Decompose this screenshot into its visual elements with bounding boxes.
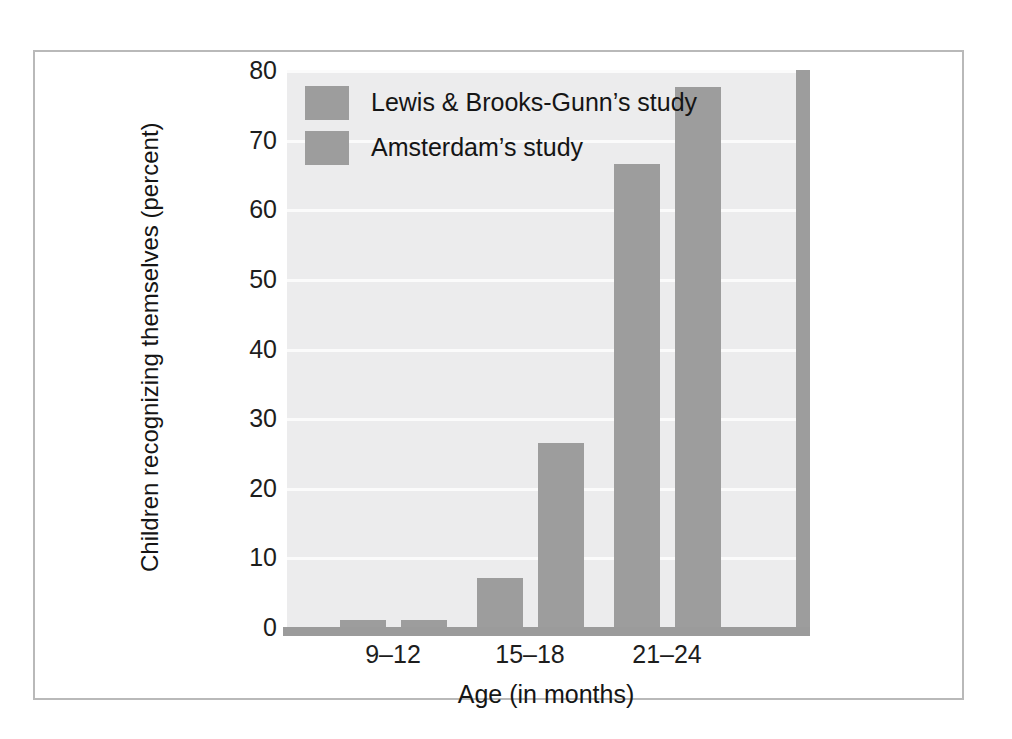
x-tick-label-15-18: 15–18 (495, 640, 565, 669)
bar-group3-series1 (614, 164, 660, 627)
y-tick-label-30: 30 (217, 406, 277, 431)
legend-item-amsterdam: Amsterdam’s study (305, 125, 735, 170)
y-tick-label-70: 70 (217, 127, 277, 152)
bar-chart: 80 70 60 50 40 30 20 10 0 Children recog… (0, 0, 1012, 739)
legend-label: Amsterdam’s study (371, 133, 583, 162)
x-tick-label-21-24: 21–24 (632, 640, 702, 669)
legend-item-lewis-brooks-gunn: Lewis & Brooks-Gunn’s study (305, 80, 735, 125)
x-axis-line (283, 627, 810, 636)
y-tick-label-60: 60 (217, 197, 277, 222)
legend: Lewis & Brooks-Gunn’s study Amsterdam’s … (305, 80, 735, 170)
y-axis-ticks: 80 70 60 50 40 30 20 10 0 (209, 70, 277, 627)
bar-group1-series2 (401, 620, 447, 627)
bar-group4-series2-clipped (796, 70, 810, 627)
bar-group2-series2 (538, 443, 584, 628)
y-tick-label-0: 0 (217, 615, 277, 640)
y-tick-label-40: 40 (217, 336, 277, 361)
y-tick-label-20: 20 (217, 475, 277, 500)
legend-swatch-icon (305, 86, 349, 120)
bar-group1-series1 (340, 620, 386, 627)
bar-group2-series1 (477, 578, 523, 627)
x-tick-label-9-12: 9–12 (365, 640, 421, 669)
legend-swatch-icon (305, 131, 349, 165)
y-tick-label-50: 50 (217, 266, 277, 291)
x-axis-title: Age (in months) (287, 680, 805, 709)
y-tick-label-80: 80 (217, 58, 277, 83)
legend-label: Lewis & Brooks-Gunn’s study (371, 88, 697, 117)
x-axis-ticks: 9–12 15–18 21–24 (287, 640, 805, 676)
y-axis-title: Children recognizing themselves (percent… (136, 152, 164, 572)
y-tick-label-10: 10 (217, 545, 277, 570)
